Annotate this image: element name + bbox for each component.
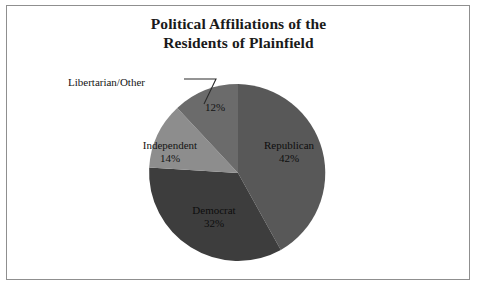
pie-label-libertarian-other-name: Libertarian/Other [68, 76, 184, 89]
pie-label-independent-name: Independent [126, 139, 214, 152]
pie-label-democrat-value: 32% [177, 217, 251, 230]
pie-label-democrat-name: Democrat [177, 204, 251, 217]
pie-label-independent: Independent 14% [126, 139, 214, 165]
pie-label-libertarian-other-value: 12% [198, 101, 232, 114]
pie-label-republican-name: Republican [252, 139, 326, 152]
pie-label-republican: Republican 42% [252, 139, 326, 165]
pie-label-democrat: Democrat 32% [177, 204, 251, 230]
chart-page: Political Affiliations of the Residents … [0, 0, 477, 287]
pie-label-republican-value: 42% [252, 152, 326, 165]
pie-label-independent-value: 14% [126, 152, 214, 165]
pie-chart-graphic [0, 0, 477, 287]
